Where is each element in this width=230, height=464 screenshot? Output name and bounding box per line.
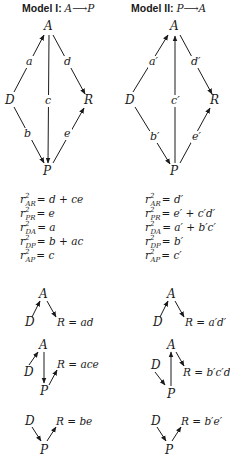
node-d: D (150, 414, 161, 428)
node-d: D (24, 315, 35, 329)
model-1-path-b: b (24, 127, 31, 140)
model-2-decomposition-2: A D P R = b′c′d′ (150, 338, 230, 401)
model-2-path-a: a′ (149, 55, 159, 68)
model-2-node-d: D (124, 93, 135, 107)
equation-row: r2DP= b + ac (20, 234, 83, 250)
model-1-node-a: A (43, 19, 53, 33)
node-p: P (166, 387, 176, 401)
node-p: P (39, 443, 49, 457)
model-2-path-b: b′ (150, 130, 160, 143)
model-2-node-a: A (169, 19, 179, 33)
decomposition-result: R = be (55, 415, 92, 427)
model-1-node-r: R (83, 93, 93, 107)
equation-row: r2PR= e′ + c′d′ (145, 206, 216, 222)
node-d: D (152, 315, 163, 329)
decomposition-result: R = b′c′d′ (182, 366, 230, 378)
svg-text:r2DA= a′ + b′c′: r2DA= a′ + b′c′ (145, 220, 216, 236)
node-p: P (164, 443, 174, 457)
equation-row: r2AP= c′ (145, 248, 182, 264)
decomposition-result: R = a′d′ (184, 316, 227, 328)
model-2-decomposition-3: D P R = b′e′ (150, 414, 223, 457)
model-2-decomposition-1: A D R = a′d′ (152, 287, 227, 329)
model-1-path-a: a (26, 55, 33, 68)
model-2-node-p: P (169, 164, 179, 178)
model-1-decomposition-1: A D R = ad (24, 287, 94, 329)
path-diagrams: A D R P a d c b e A D R P a′ d′ c′ b′ e′… (0, 0, 230, 464)
node-a: A (166, 338, 176, 352)
model-1-decomposition-2: A D P R = ace (23, 338, 99, 398)
decomposition-result: R = b′e′ (180, 415, 223, 427)
model-1-path-c: c (45, 94, 51, 107)
svg-text:r2AP= c: r2AP= c (20, 248, 54, 264)
node-a: A (38, 338, 48, 352)
model-2-path-c: c′ (171, 94, 180, 107)
model-2-path-e: e′ (192, 130, 202, 143)
node-d: D (24, 414, 35, 428)
model-1-equations: r2AR= d + ce r2PR= e r2DA= a r2DP= b + a… (20, 192, 83, 264)
model-1-node-p: P (42, 164, 52, 178)
model-2-path-d: d′ (191, 55, 201, 68)
svg-text:r2DP= b + ac: r2DP= b + ac (20, 234, 83, 250)
equation-row: r2AP= c (20, 248, 54, 264)
node-a: A (38, 287, 48, 301)
node-a: A (166, 287, 176, 301)
svg-text:r2PR= e′ + c′d′: r2PR= e′ + c′d′ (145, 206, 216, 222)
decomposition-result: R = ad (56, 316, 94, 328)
node-p: P (39, 384, 49, 398)
decomposition-result: R = ace (56, 358, 99, 370)
svg-text:r2AP= c′: r2AP= c′ (145, 248, 182, 264)
model-1-decomposition-3: D P R = be (24, 414, 92, 457)
model-2-equations: r2AR= d′ r2PR= e′ + c′d′ r2DA= a′ + b′c′… (145, 192, 216, 264)
node-d: D (23, 365, 34, 379)
model-2-node-r: R (209, 93, 219, 107)
node-d: D (150, 358, 161, 372)
model-1-path-e: e (64, 127, 71, 140)
equation-row: r2DA= a′ + b′c′ (145, 220, 216, 236)
model-1-path-d: d (64, 55, 71, 68)
model-1-node-d: D (4, 93, 15, 107)
